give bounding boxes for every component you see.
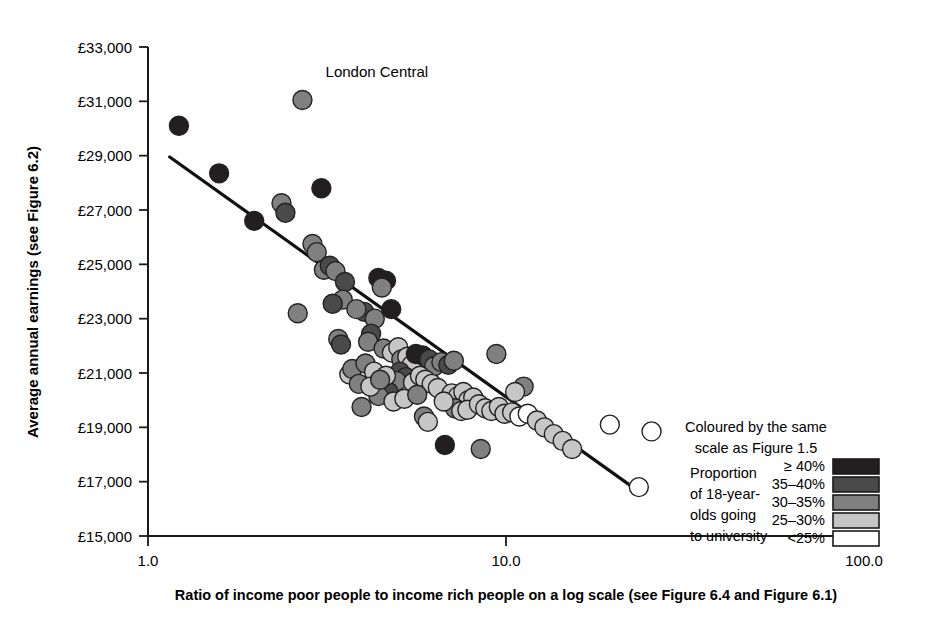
y-tick-label: £25,000	[78, 256, 132, 273]
y-tick-label: £19,000	[78, 419, 132, 436]
data-points	[169, 90, 661, 496]
axes	[148, 47, 864, 536]
scatter-point	[288, 304, 307, 323]
legend-color-swatch	[833, 513, 879, 528]
y-axis-ticks: £15,000£17,000£19,000£21,000£23,000£25,0…	[78, 39, 148, 545]
scatter-point	[276, 203, 295, 222]
legend-bin-label: 25–30%	[772, 512, 825, 528]
legend-color-swatch	[833, 531, 879, 546]
y-axis-title: Average annual earnings (see Figure 6.2)	[24, 146, 41, 438]
scatter-point	[245, 211, 264, 230]
legend: Coloured by the samescale as Figure 1.5P…	[685, 419, 879, 546]
scatter-point	[563, 440, 582, 459]
y-tick-label: £21,000	[78, 365, 132, 382]
legend-caption-line: Coloured by the same	[685, 419, 827, 435]
scatter-plot-canvas: £15,000£17,000£19,000£21,000£23,000£25,0…	[0, 0, 929, 626]
scatter-point	[371, 370, 390, 389]
x-axis-title: Ratio of income poor people to income ri…	[175, 587, 837, 603]
annotation-london-central: London Central	[326, 63, 429, 80]
legend-bin-label: 30–35%	[772, 494, 825, 510]
scatter-point	[444, 351, 463, 370]
scatter-point	[323, 294, 342, 313]
scatter-point	[434, 392, 453, 411]
legend-description-line: of 18-year-	[690, 486, 760, 502]
scatter-point	[331, 335, 350, 354]
legend-caption-line: scale as Figure 1.5	[695, 440, 818, 456]
legend-color-swatch	[833, 477, 879, 492]
scatter-point	[382, 300, 401, 319]
legend-description-line: Proportion	[690, 465, 757, 481]
scatter-point	[210, 164, 229, 183]
y-tick-label: £29,000	[78, 147, 132, 164]
scatter-point	[418, 412, 437, 431]
scatter-point	[629, 478, 648, 497]
figure-scatter-earnings-vs-poor-rich-ratio: £15,000£17,000£19,000£21,000£23,000£25,0…	[0, 0, 929, 626]
y-tick-label: £27,000	[78, 202, 132, 219]
x-tick-label: 1.0	[138, 552, 159, 569]
y-tick-label: £17,000	[78, 473, 132, 490]
y-tick-label: £23,000	[78, 310, 132, 327]
legend-bin-label: <25%	[788, 530, 826, 546]
scatter-point	[600, 415, 619, 434]
scatter-point	[408, 385, 427, 404]
annotations: London Central	[326, 63, 429, 80]
scatter-point	[312, 179, 331, 198]
scatter-point	[372, 278, 391, 297]
y-tick-label: £31,000	[78, 93, 132, 110]
scatter-point	[293, 90, 312, 109]
legend-bin-label: 35–40%	[772, 476, 825, 492]
legend-color-swatch	[833, 459, 879, 474]
scatter-point	[335, 272, 354, 291]
legend-description-line: olds going	[690, 507, 756, 523]
scatter-point	[352, 397, 371, 416]
y-tick-label: £15,000	[78, 528, 132, 545]
legend-color-swatch	[833, 495, 879, 510]
scatter-point	[347, 300, 366, 319]
x-tick-label: 100.0	[845, 552, 883, 569]
scatter-point	[471, 440, 490, 459]
scatter-point	[435, 435, 454, 454]
scatter-point	[487, 344, 506, 363]
scatter-point	[169, 116, 188, 135]
x-axis-ticks: 1.010.0100.0	[138, 536, 883, 569]
scatter-point	[642, 422, 661, 441]
x-tick-label: 10.0	[491, 552, 520, 569]
scatter-point	[506, 383, 525, 402]
legend-description-line: to university	[690, 528, 768, 544]
legend-bin-label: ≥ 40%	[784, 458, 825, 474]
y-tick-label: £33,000	[78, 39, 132, 56]
